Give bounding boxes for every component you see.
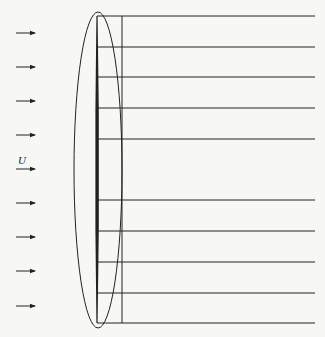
- free-stream-arrows: [16, 33, 35, 306]
- boundary-layer-diagram: U: [0, 0, 325, 337]
- flat-plate: [95, 16, 98, 323]
- free-stream-velocity-label: U: [18, 154, 27, 166]
- streamlines: [97, 16, 315, 323]
